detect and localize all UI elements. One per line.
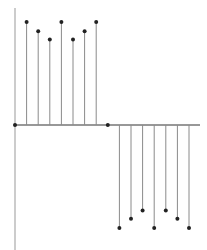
stem-marker [13,123,17,127]
stem-marker [129,217,133,221]
stem-marker [187,226,191,230]
stem-marker [152,226,156,230]
stem-marker [25,20,29,24]
stem-marker [175,217,179,221]
stem-marker [117,226,121,230]
stem-marker [164,208,168,212]
stem-marker [36,29,40,33]
stem-chart [0,0,207,250]
stem-marker [48,38,52,42]
stem-marker [141,208,145,212]
stem-marker [106,123,110,127]
stem-marker [94,20,98,24]
stem-marker [59,20,63,24]
stem-marker [71,38,75,42]
stem-marker [83,29,87,33]
